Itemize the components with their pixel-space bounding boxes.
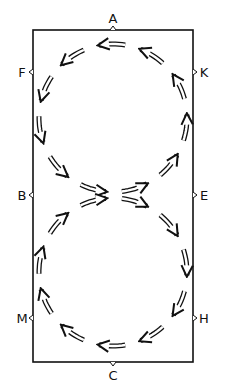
marker-m: M [16,311,33,326]
marker-letter: M [16,311,27,326]
marker-letter: C [108,368,117,383]
marker-letter: F [18,65,25,80]
direction-arrow-icon [160,215,177,235]
arena-markers: AFKBEMHC [16,11,209,383]
direction-arrow-icon [62,50,84,64]
marker-letter: E [200,188,208,203]
direction-arrow-icon [141,49,163,63]
direction-arrow-icon [50,157,67,177]
marker-letter: A [109,11,118,26]
marker-b: B [18,188,33,203]
path-arrows [39,44,187,346]
direction-arrow-icon [99,345,125,346]
marker-e: E [193,188,208,203]
marker-a: A [109,11,118,30]
arena-rectangle [33,30,193,362]
direction-arrow-icon [99,44,125,45]
figure-eight-diagram: AFKBEMHC [0,0,226,389]
arena-border [33,30,193,362]
direction-arrow-icon [50,214,67,234]
direction-arrow-icon [141,327,163,341]
marker-letter: H [199,311,209,326]
marker-letter: B [18,188,27,203]
marker-f: F [18,65,33,80]
marker-c: C [108,362,117,383]
marker-h: H [193,311,209,326]
marker-letter: K [200,65,209,80]
marker-k: K [193,65,209,80]
lower-circle-arrows [39,198,187,346]
direction-arrow-icon [160,155,177,175]
direction-arrow-icon [62,326,84,340]
upper-circle-arrows [39,44,187,192]
